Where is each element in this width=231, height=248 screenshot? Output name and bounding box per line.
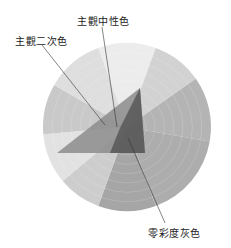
label-subjective-neutral: 主觀中性色: [77, 13, 130, 28]
label-zero-chroma-gray: 零彩度灰色: [148, 225, 201, 240]
label-subjective-secondary: 主觀二次色: [15, 33, 68, 48]
